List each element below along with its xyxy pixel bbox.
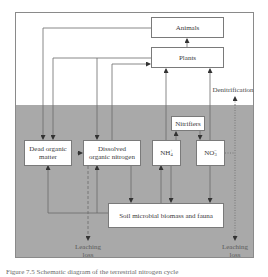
connector-lines xyxy=(0,0,268,277)
node-animals: Animals xyxy=(151,17,224,38)
figure-caption: Figure 7.5 Schematic diagram of the terr… xyxy=(6,268,268,276)
node-dead-organic-matter-line2: matter xyxy=(39,153,57,161)
nitrate-subscript: 3 xyxy=(214,153,217,157)
node-ammonium-label: NH+4 xyxy=(160,149,173,157)
node-dead-organic-matter: Dead organic matter xyxy=(24,140,72,166)
leaching-loss-left: Leaching loss xyxy=(70,243,106,259)
leaching-loss-right-line1: Leaching xyxy=(217,243,253,251)
node-ammonium: NH+4 xyxy=(152,140,181,166)
nitrate-base: NO xyxy=(204,149,214,157)
leaching-loss-left-line2: loss xyxy=(70,251,106,259)
node-nitrate-label: NO−3 xyxy=(204,149,217,157)
node-don-line1: Dissolved xyxy=(98,145,126,153)
denitrification-label: Denitrification xyxy=(211,86,255,94)
node-dissolved-organic-nitrogen: Dissolved organic nitrogen xyxy=(83,140,141,166)
node-soil-microbial-biomass-label: Soil microbial biomass and fauna xyxy=(119,212,213,220)
leaching-loss-right-line2: loss xyxy=(217,251,253,259)
node-nitrifiers-label: Nitrifiers xyxy=(175,120,201,128)
node-nitrifiers: Nitrifiers xyxy=(171,116,205,131)
ammonium-base: NH xyxy=(160,149,170,157)
node-nitrate: NO−3 xyxy=(196,140,225,166)
node-plants: Plants xyxy=(151,47,224,68)
node-soil-microbial-biomass: Soil microbial biomass and fauna xyxy=(108,203,224,228)
node-dead-organic-matter-line1: Dead organic xyxy=(29,145,66,153)
leaching-loss-right: Leaching loss xyxy=(217,243,253,259)
node-animals-label: Animals xyxy=(176,24,200,32)
leaching-loss-left-line1: Leaching xyxy=(70,243,106,251)
node-don-line2: organic nitrogen xyxy=(89,153,135,161)
ammonium-subscript: 4 xyxy=(170,153,173,157)
node-plants-label: Plants xyxy=(179,54,196,62)
